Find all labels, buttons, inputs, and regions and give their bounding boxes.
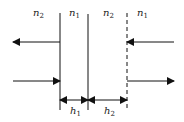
diagram-canvas: n2 n1 n2 n1 h1 h2 <box>0 0 184 122</box>
layer-label-2: n1 <box>69 7 80 20</box>
thickness-label-h2: h2 <box>104 105 115 118</box>
layer-label-1: n2 <box>33 7 44 20</box>
thickness-label-h1: h1 <box>70 105 81 118</box>
layer-label-3: n2 <box>103 7 114 20</box>
layer-label-4: n1 <box>137 7 148 20</box>
